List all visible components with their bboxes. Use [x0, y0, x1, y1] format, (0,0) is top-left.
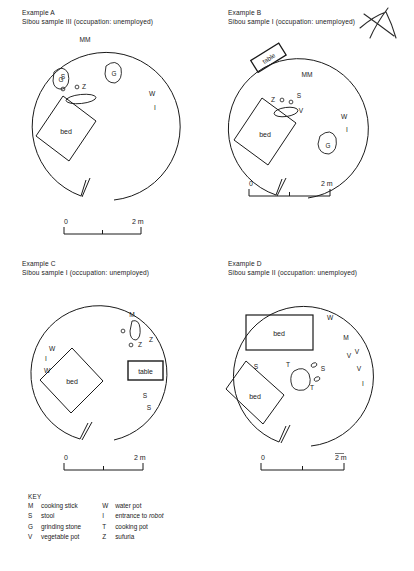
figure-page: Example A Sibou sample III (occupation: …: [0, 0, 414, 571]
bed-d-2-label: bed: [249, 393, 261, 400]
hut-wall-a: [32, 52, 180, 200]
bed-b-label: bed: [259, 131, 271, 138]
panel-d-heading-line2: Sibou sample II (occupation: unemployed): [228, 268, 357, 277]
table-c-label: table: [138, 368, 153, 375]
label-i-b: I: [346, 126, 348, 133]
sufuria-a: [66, 93, 97, 105]
label-mm-b: MM: [302, 71, 313, 78]
panel-a-heading: Example A Sibou sample III (occupation: …: [22, 8, 153, 26]
label-s-a: S: [61, 73, 66, 80]
table-b: table: [251, 43, 286, 72]
panel-example-a: Example A Sibou sample III (occupation: …: [22, 8, 153, 26]
panel-c-heading-line1: Example C: [22, 260, 56, 267]
key-label-i-text: entrance to: [115, 512, 149, 519]
panel-b-heading-line2: Sibou sample I (occupation: unemployed): [228, 17, 355, 26]
scalebar-d-right-label: 2 m: [335, 454, 347, 461]
pot-d-2: [313, 376, 320, 382]
bed-a: bed: [36, 96, 96, 161]
bed-d-1: bed: [246, 315, 313, 350]
key-column-left: M cooking stick S stool G grinding stone…: [28, 502, 81, 539]
bed-d-1-label: bed: [273, 330, 285, 337]
key-label-s: stool: [41, 512, 81, 519]
label-w-a: W: [149, 90, 156, 97]
key-symbol-z: Z: [102, 533, 115, 540]
key-label-g: grinding stone: [41, 523, 81, 530]
key-symbol-m: M: [28, 502, 41, 509]
pot-b-2: [289, 100, 293, 104]
panel-b-heading-line1: Example B: [228, 9, 261, 16]
panel-d-plan: bed bed S T S T W M V V V I: [218, 285, 398, 455]
key-label-i: entrance to robot: [115, 512, 163, 519]
label-t-d-1: T: [286, 361, 290, 368]
caption-cropped: [95, 563, 345, 571]
key-symbol-t: T: [102, 523, 115, 530]
panel-c-heading: Example C Sibou sample I (occupation: un…: [22, 259, 149, 277]
scalebar-a: 0 2 m: [58, 216, 168, 242]
label-s-b: S: [297, 92, 302, 99]
panel-b-heading: Example B Sibou sample I (occupation: un…: [228, 8, 355, 26]
vessel-c: [130, 321, 140, 340]
bed-c: bed: [40, 348, 103, 413]
scalebar-c: 0 2 m: [58, 452, 178, 478]
label-v-b: V: [299, 107, 304, 114]
key-symbol-s: S: [28, 512, 41, 519]
label-m-d: M: [343, 334, 349, 341]
pot-b-1: [280, 98, 284, 102]
panel-a-heading-line2: Sibou sample III (occupation: unemployed…: [22, 17, 153, 26]
label-g-b: G: [326, 142, 331, 149]
panel-d-heading: Example D Sibou sample II (occupation: u…: [228, 259, 357, 277]
panel-c-plan: bed table M Z Z W I W S S: [18, 285, 198, 455]
label-z-c-2: Z: [149, 336, 153, 343]
key-symbol-g: G: [28, 523, 41, 530]
sufuria-b: [273, 106, 298, 118]
pot-d-1: [310, 362, 317, 368]
panel-example-b: Example B Sibou sample I (occupation: un…: [228, 8, 355, 26]
pot-a-2: [75, 85, 79, 89]
cooking-pot-d: [291, 369, 310, 391]
bed-d-2: bed: [226, 361, 284, 424]
scalebar-c-right-label: 2 m: [134, 454, 146, 461]
scalebar-a-left-label: 0: [64, 218, 68, 225]
bed-c-label: bed: [66, 378, 78, 385]
scalebar-b-right-label: 2 m: [321, 180, 333, 187]
label-m-c: M: [129, 311, 135, 318]
label-i-c: I: [45, 355, 47, 362]
panel-example-c: Example C Sibou sample I (occupation: un…: [22, 259, 149, 277]
label-w-c-1: W: [49, 345, 56, 352]
scalebar-b: 0 2 m: [243, 178, 363, 204]
label-s-c-2: S: [147, 404, 152, 411]
key-symbol-i: I: [102, 512, 115, 519]
label-v-d-3: V: [357, 365, 362, 372]
scalebar-a-right-label: 2 m: [132, 218, 144, 225]
key-label-i-italic: robot: [149, 512, 164, 519]
label-s-d-2: S: [321, 365, 326, 372]
label-z-b: Z: [271, 96, 275, 103]
label-v-d-2: V: [355, 348, 360, 355]
pot-c-2: [129, 343, 133, 347]
label-z-a: Z: [82, 83, 86, 90]
key-label-z: sufuria: [115, 533, 163, 540]
key-title: KEY: [28, 493, 164, 500]
panel-a-heading-line1: Example A: [22, 9, 55, 16]
label-w-c-2: W: [44, 367, 51, 374]
label-i-a: I: [154, 104, 156, 111]
bed-b: bed: [234, 98, 296, 165]
scalebar-d: 0 2 m: [255, 452, 385, 478]
panel-example-d: Example D Sibou sample II (occupation: u…: [228, 259, 357, 277]
label-mm-a: MM: [80, 36, 91, 43]
scalebar-c-left-label: 0: [64, 454, 68, 461]
panel-d-heading-line1: Example D: [228, 260, 262, 267]
label-w-b: W: [341, 113, 348, 120]
label-s-c-1: S: [143, 392, 148, 399]
key-column-right: W water pot I entrance to robot T cookin…: [102, 502, 163, 539]
key-label-t: cooking pot: [115, 523, 163, 530]
scalebar-b-left-label: 0: [249, 180, 253, 187]
label-t-d-2: T: [310, 384, 314, 391]
label-z-c-1: Z: [138, 341, 142, 348]
bed-a-label: bed: [60, 128, 72, 135]
label-s-d-1: S: [254, 363, 259, 370]
hut-wall-d: [233, 306, 373, 446]
key-legend: KEY M cooking stick S stool G grinding s…: [28, 493, 164, 540]
key-label-w: water pot: [115, 502, 163, 509]
label-g-a-2: G: [112, 70, 117, 77]
